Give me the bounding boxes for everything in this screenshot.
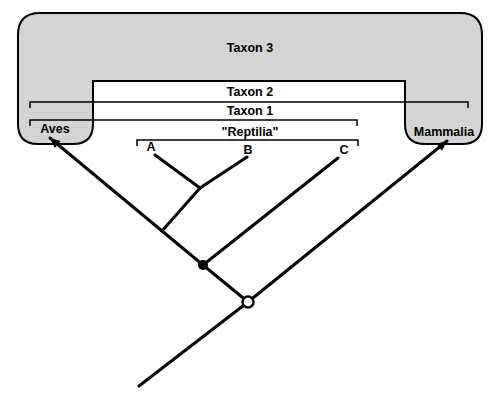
tip-a-branch [155, 155, 200, 188]
aves-tip-label: Aves [40, 122, 69, 136]
taxon1-label: Taxon 1 [227, 104, 273, 118]
root-branch [139, 302, 248, 386]
mammalia-branch [248, 141, 447, 302]
taxon1-ancestor-filled-node-icon [198, 260, 208, 270]
cladogram-figure: Taxon 3 Taxon 2 Taxon 1 "Reptilia" Aves … [0, 0, 492, 407]
ab-clade-stem [162, 188, 200, 231]
taxon2-label: Taxon 2 [227, 85, 273, 99]
reptilia-label: "Reptilia" [221, 125, 278, 139]
tip-a-label: A [146, 140, 155, 154]
tip-b-branch [200, 157, 247, 188]
taxon3-label: Taxon 3 [227, 41, 273, 55]
aves-branch [50, 138, 203, 265]
taxon2-ancestor-open-node-icon [243, 297, 254, 308]
mammalia-tip-label: Mammalia [414, 125, 475, 139]
tip-c-label: C [339, 143, 348, 157]
tip-b-label: B [243, 143, 252, 157]
taxon1-clade-stem [203, 265, 248, 302]
tree-branches [50, 138, 447, 386]
